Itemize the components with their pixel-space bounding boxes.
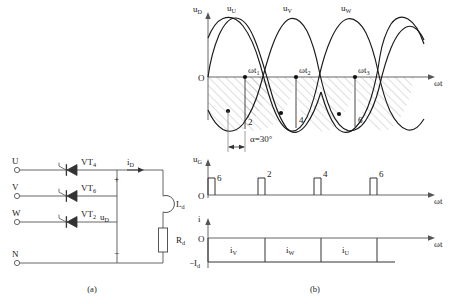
hatch-segment-1: [208, 77, 245, 131]
firing-point-dot-1: [243, 75, 247, 79]
time-mark-wt1: ωt1: [248, 65, 260, 76]
caption-a: (a): [87, 284, 97, 294]
thyristor-gate-lead: [59, 189, 66, 196]
wave-label-uv: uV: [283, 3, 293, 14]
wave-label-uu: uU: [227, 3, 237, 14]
gate-pulse-label-3: 4: [323, 169, 328, 179]
ug-xaxis-label: ωt: [434, 196, 443, 206]
polarity-plus: +: [114, 174, 119, 184]
gate-pulse-label-2: 2: [267, 169, 272, 179]
ug-yaxis-label: uG: [193, 154, 203, 165]
gate-pulse-label-1: 6: [217, 173, 222, 183]
time-mark-wt2: ωt2: [299, 65, 311, 76]
firing-point-dot-2: [294, 75, 298, 79]
firing-point-dot-3: [353, 75, 357, 79]
hatch-segment-4b: [388, 77, 414, 130]
current-segment-label-iw: iW: [286, 245, 295, 256]
ud-yaxis-label: uD: [193, 4, 203, 15]
wave-label-uw: uW: [341, 3, 352, 14]
ug-origin-label: O: [198, 191, 205, 201]
alpha-angle-label: α=30°: [250, 134, 273, 144]
terminal-node-v: [14, 193, 19, 198]
ug-waveform-plot: 6 2 4 6 O uG ωt: [193, 154, 443, 206]
i-yaxis-arrowhead: [205, 218, 210, 225]
current-segment-label-iv: iV: [230, 245, 238, 256]
terminal-node-u: [14, 167, 19, 172]
i-negative-level-label: −Id: [190, 258, 201, 269]
i-xaxis-label: ωt: [434, 239, 443, 249]
hatch-segment-2b: [285, 77, 296, 110]
current-segment-label-iu: iU: [342, 245, 350, 256]
inductor-coil-arc: [163, 195, 174, 212]
thyristor-label-vt4: VT4: [81, 157, 96, 168]
figure-root: U V W N VT4 VT6 VT2: [0, 0, 456, 304]
circuit-diagram-a: U V W N VT4 VT6 VT2: [0, 0, 200, 304]
thyristor-label-vt2: VT2: [81, 209, 96, 220]
caption-b: (b): [310, 284, 320, 294]
gate-pulse-1: [208, 178, 215, 195]
terminal-node-n: [14, 260, 19, 265]
terminal-node-w: [14, 219, 19, 224]
current-waveform-plot: iV iW iU O −Id i ωt: [190, 214, 443, 269]
gate-pulse-label-4: 6: [379, 169, 384, 179]
ud-xaxis-label: ωt: [434, 78, 443, 88]
thyristor-label-vt6: VT6: [81, 183, 96, 194]
natural-commutation-dot-2: [279, 111, 283, 115]
thyristor-anode-triangle: [67, 191, 77, 202]
thyristor-vt6: [59, 189, 77, 202]
conduction-hatch-areas: [208, 77, 414, 132]
i-origin-label: O: [198, 234, 205, 244]
thyristor-anode-triangle: [67, 217, 77, 228]
firing-number-2: 2: [248, 117, 253, 127]
voltage-label-ud: uD: [100, 212, 110, 223]
resistor-rd-body: [159, 228, 168, 252]
terminal-label-u: U: [12, 156, 19, 166]
time-mark-wt3: ωt3: [358, 65, 370, 76]
natural-commutation-dot-3: [337, 112, 341, 116]
ug-yaxis-arrowhead: [205, 159, 210, 166]
alpha-dimension-arrow: [228, 145, 245, 149]
thyristor-vt2: [59, 215, 77, 228]
firing-number-4: 4: [299, 115, 304, 125]
gate-pulse-2: [258, 178, 265, 195]
current-label-id: iD: [127, 157, 135, 168]
i-yaxis-label: i: [198, 214, 201, 224]
terminal-label-v: V: [12, 182, 19, 192]
thyristor-anode-triangle: [67, 165, 77, 176]
inductor-label-ld: Ld: [176, 199, 186, 210]
ud-origin-label: O: [198, 73, 205, 83]
terminal-label-n: N: [12, 249, 19, 259]
polarity-minus: −: [114, 248, 119, 258]
waveform-diagram-b: O uD ωt uU uV uW ωt1 ωt2 ωt3 2 4 6 α=30°: [190, 0, 456, 304]
resistor-label-rd: Rd: [176, 235, 186, 246]
sinusoid-uv-third: [380, 17, 424, 56]
terminal-label-w: W: [12, 208, 21, 218]
sinusoid-uu-second: [319, 19, 378, 77]
ud-waveform-plot: O uD ωt uU uV uW ωt1 ωt2 ωt3 2 4 6 α=30°: [193, 3, 443, 152]
ud-yaxis-arrowhead: [205, 12, 210, 19]
gate-pulse-4: [370, 178, 377, 195]
firing-number-6: 6: [358, 115, 363, 125]
thyristor-gate-lead: [59, 215, 66, 222]
gate-pulse-3: [314, 178, 321, 195]
thyristor-gate-lead: [59, 163, 66, 170]
inductor-ld: [163, 195, 174, 212]
thyristor-vt4: [59, 163, 77, 176]
phase-line-n: [14, 260, 117, 265]
